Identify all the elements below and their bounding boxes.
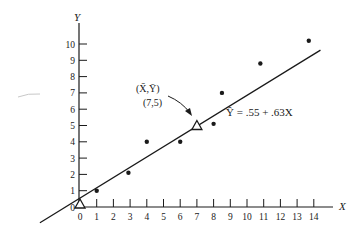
mean-label: (X̄,Ȳ) xyxy=(136,83,160,95)
y-tick-label: 3 xyxy=(70,154,75,164)
data-point xyxy=(178,140,182,144)
x-tick-label: 12 xyxy=(276,212,286,222)
y-ticks: 012345678910 xyxy=(66,40,88,213)
y-tick-label: 4 xyxy=(70,137,75,147)
y-tick-label: 2 xyxy=(70,170,75,180)
data-point xyxy=(95,189,99,193)
x-tick-label: 10 xyxy=(242,212,252,222)
data-point xyxy=(145,140,149,144)
data-point xyxy=(307,39,311,43)
x-tick-label: 0 xyxy=(78,212,83,222)
x-tick-label: 13 xyxy=(292,212,302,222)
arrowhead-icon xyxy=(185,108,192,116)
data-point xyxy=(220,91,224,95)
data-point xyxy=(211,122,215,126)
regression-scatter-chart: 012345678910 01234567891011121314 Y X (X… xyxy=(0,0,363,241)
x-tick-label: 8 xyxy=(211,212,216,222)
y-tick-label: 9 xyxy=(70,56,75,66)
y-tick-label: 1 xyxy=(70,186,75,196)
x-axis-label: X xyxy=(338,200,347,212)
data-point xyxy=(126,171,130,175)
x-tick-label: 6 xyxy=(178,212,183,222)
x-tick-label: 9 xyxy=(228,212,233,222)
x-tick-label: 14 xyxy=(309,212,319,222)
regression-line xyxy=(40,50,321,223)
data-point xyxy=(258,61,262,65)
y-axis-label: Y xyxy=(74,11,82,23)
stray-mark xyxy=(18,94,40,97)
x-tick-label: 3 xyxy=(128,212,133,222)
x-tick-label: 2 xyxy=(111,212,116,222)
x-tick-label: 7 xyxy=(195,212,200,222)
x-tick-label: 5 xyxy=(161,212,166,222)
y-tick-label: 5 xyxy=(70,121,75,131)
y-tick-label: 7 xyxy=(70,88,75,98)
axes xyxy=(79,23,333,207)
reference-markers xyxy=(75,121,202,209)
x-ticks: 01234567891011121314 xyxy=(78,199,319,222)
regression-equation: Ŷ = .55 + .63X xyxy=(226,106,293,118)
y-tick-label: 8 xyxy=(70,72,75,82)
x-tick-label: 4 xyxy=(144,212,149,222)
y-tick-label: 10 xyxy=(66,40,76,50)
x-tick-label: 1 xyxy=(94,212,99,222)
x-tick-label: 11 xyxy=(259,212,268,222)
triangle-marker-icon xyxy=(192,121,202,130)
mean-value: (7,5) xyxy=(143,97,162,109)
y-tick-label: 6 xyxy=(70,105,75,115)
